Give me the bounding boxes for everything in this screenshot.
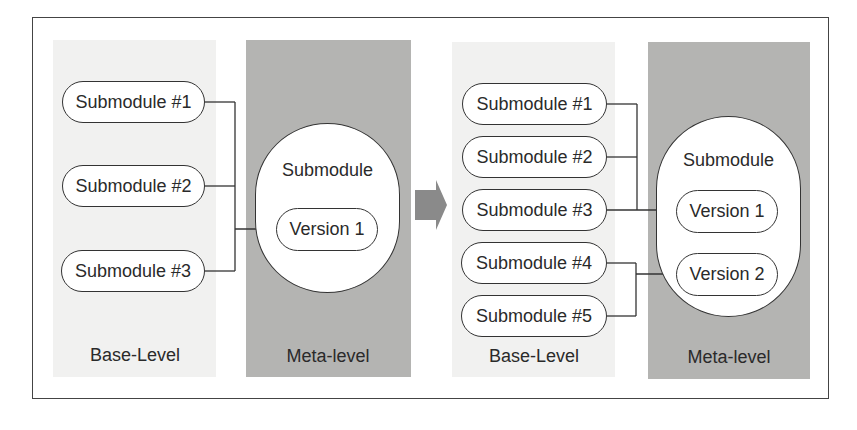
after-base-level-label: Base-Level [454,346,614,367]
after-submodule-2: Submodule #2 [462,136,607,178]
after-version-2: Version 2 [676,253,778,296]
before-meta-level-label: Meta-level [248,346,408,367]
before-base-level-label: Base-Level [55,345,215,366]
after-submodule-4: Submodule #4 [461,242,607,284]
before-submodule-1: Submodule #1 [62,81,205,123]
before-submodule-3: Submodule #3 [61,250,205,292]
after-meta-level-label: Meta-level [649,347,809,368]
after-meta-submodule-title: Submodule [657,150,800,171]
before-submodule-2: Submodule #2 [62,165,205,207]
before-meta-submodule-title: Submodule [256,160,399,181]
after-submodule-5: Submodule #5 [461,295,607,337]
after-submodule-1: Submodule #1 [462,83,607,125]
after-version-1: Version 1 [676,190,778,233]
after-submodule-3: Submodule #3 [462,189,607,231]
before-version-1: Version 1 [276,208,378,251]
